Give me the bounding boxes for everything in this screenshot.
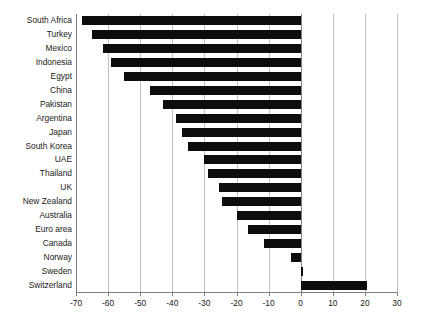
- bars: [76, 14, 397, 292]
- x-tick-label: 0: [298, 297, 303, 309]
- tick-mark--20: [237, 292, 238, 296]
- x-tick-label: -40: [166, 297, 178, 309]
- category-label: Switzerland: [0, 281, 72, 290]
- bar: [219, 183, 301, 192]
- bar: [92, 30, 301, 39]
- category-axis-labels: South AfricaTurkeyMexicoIndonesiaEgyptCh…: [0, 14, 72, 292]
- bar: [103, 44, 300, 53]
- tick-mark--30: [204, 292, 205, 296]
- bar: [248, 225, 301, 234]
- category-label: South Korea: [0, 142, 72, 151]
- bar: [222, 197, 301, 206]
- bar: [82, 16, 300, 25]
- x-tick-label: -20: [230, 297, 242, 309]
- tick-mark--50: [140, 292, 141, 296]
- x-tick-label: 20: [360, 297, 369, 309]
- category-label: New Zealand: [0, 197, 72, 206]
- gridline-30: [397, 14, 398, 292]
- category-label: Mexico: [0, 44, 72, 53]
- bar: [291, 253, 301, 262]
- x-tick-label: -50: [134, 297, 146, 309]
- bar: [208, 169, 301, 178]
- bar: [182, 128, 301, 137]
- tick-mark--60: [108, 292, 109, 296]
- tick-mark-30: [397, 292, 398, 296]
- category-label: Egypt: [0, 72, 72, 81]
- tick-mark-20: [365, 292, 366, 296]
- x-tick-label: -30: [198, 297, 210, 309]
- tick-mark-0: [301, 292, 302, 296]
- category-label: UK: [0, 183, 72, 192]
- category-label: Thailand: [0, 169, 72, 178]
- tick-mark-10: [333, 292, 334, 296]
- category-label: Australia: [0, 211, 72, 220]
- bar: [301, 267, 303, 276]
- category-label: Pakistan: [0, 100, 72, 109]
- category-label: Norway: [0, 253, 72, 262]
- bar: [264, 239, 301, 248]
- category-label: Sweden: [0, 267, 72, 276]
- category-label: China: [0, 86, 72, 95]
- bar: [163, 100, 301, 109]
- x-tick-label: -60: [102, 297, 114, 309]
- category-label: South Africa: [0, 16, 72, 25]
- category-label: Japan: [0, 128, 72, 137]
- category-label: Indonesia: [0, 58, 72, 67]
- bar: [204, 155, 300, 164]
- bar-chart: South AfricaTurkeyMexicoIndonesiaEgyptCh…: [0, 0, 423, 323]
- bar: [301, 281, 367, 290]
- x-tick-label: -10: [263, 297, 275, 309]
- bar: [124, 72, 301, 81]
- tick-mark--10: [269, 292, 270, 296]
- category-label: UAE: [0, 155, 72, 164]
- category-label: Euro area: [0, 225, 72, 234]
- category-label: Canada: [0, 239, 72, 248]
- x-tick-label: -70: [70, 297, 82, 309]
- category-label: Argentina: [0, 114, 72, 123]
- bar: [150, 86, 301, 95]
- bar: [188, 142, 300, 151]
- tick-mark--40: [172, 292, 173, 296]
- bar: [237, 211, 301, 220]
- x-tick-label: 30: [392, 297, 401, 309]
- bar: [111, 58, 300, 67]
- plot-area: [76, 14, 397, 292]
- x-tick-label: 10: [328, 297, 337, 309]
- bar: [176, 114, 301, 123]
- tick-mark--70: [76, 292, 77, 296]
- category-label: Turkey: [0, 30, 72, 39]
- x-axis-tick-labels: -70-60-50-40-30-20-100102030: [0, 297, 423, 313]
